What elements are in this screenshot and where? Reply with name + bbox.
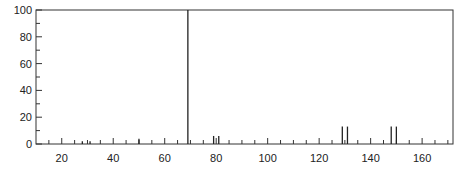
x-tick-label: 20 bbox=[56, 152, 68, 164]
y-tick-label: 80 bbox=[20, 31, 32, 43]
y-tick-label: 100 bbox=[14, 4, 32, 16]
x-tick-label: 100 bbox=[258, 152, 276, 164]
x-tick-label: 160 bbox=[413, 152, 431, 164]
y-tick-label: 40 bbox=[20, 84, 32, 96]
x-tick-label: 80 bbox=[210, 152, 222, 164]
mass-spectrum-chart: 02040608010020406080100120140160 bbox=[0, 0, 465, 173]
x-tick-label: 140 bbox=[361, 152, 379, 164]
plot-frame bbox=[36, 10, 453, 144]
x-tick-label: 60 bbox=[159, 152, 171, 164]
x-tick-label: 120 bbox=[310, 152, 328, 164]
x-tick-label: 40 bbox=[107, 152, 119, 164]
y-tick-label: 0 bbox=[26, 138, 32, 150]
y-tick-label: 60 bbox=[20, 58, 32, 70]
y-tick-label: 20 bbox=[20, 111, 32, 123]
